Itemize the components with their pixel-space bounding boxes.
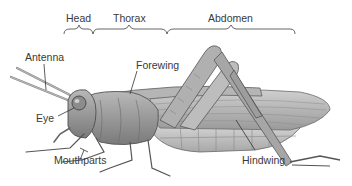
region-label-abdomen: Abdomen bbox=[208, 13, 253, 24]
part-label-forewing: Forewing bbox=[136, 60, 179, 71]
antennae bbox=[11, 68, 72, 101]
grasshopper-illustration bbox=[0, 0, 352, 186]
palps bbox=[54, 128, 70, 142]
thorax-brace bbox=[93, 25, 167, 34]
region-label-head: Head bbox=[66, 13, 91, 24]
compound-eye bbox=[72, 96, 86, 110]
antenna-leader bbox=[44, 64, 46, 90]
part-label-eye: Eye bbox=[36, 113, 54, 124]
region-label-thorax: Thorax bbox=[113, 13, 146, 24]
part-label-antenna: Antenna bbox=[25, 52, 64, 63]
abdomen-brace bbox=[167, 25, 295, 34]
region-braces bbox=[64, 25, 295, 34]
thorax bbox=[88, 92, 158, 145]
part-label-hindwing: Hindwing bbox=[242, 155, 285, 166]
head-brace bbox=[64, 25, 93, 34]
part-label-mouthparts: Mouthparts bbox=[54, 155, 107, 166]
